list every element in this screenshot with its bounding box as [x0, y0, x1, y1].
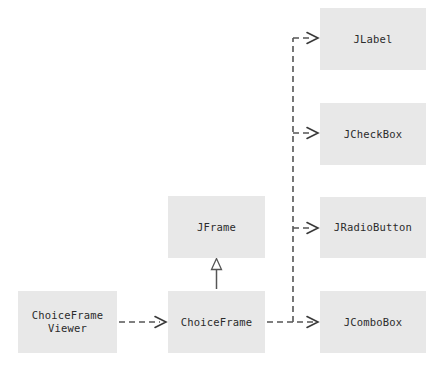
- class-name-label: JCheckBox: [344, 128, 403, 141]
- edge-choiceframe-to-jframe: [212, 259, 222, 290]
- class-name-label: JComboBox: [344, 316, 403, 329]
- class-name-label: JLabel: [353, 33, 392, 46]
- edge-viewer-to-choiceframe: [119, 317, 166, 328]
- class-box-jlabel[interactable]: JLabel: [320, 8, 426, 70]
- class-name-label: JFrame: [197, 221, 236, 234]
- edge-choiceframe-to-jradiobutton: [293, 223, 318, 234]
- class-box-jradiobutton[interactable]: JRadioButton: [320, 197, 426, 258]
- open-v-arrowhead-icon: [307, 33, 318, 44]
- hollow-triangle-arrowhead-icon: [212, 259, 222, 270]
- class-box-choiceframeviewer[interactable]: ChoiceFrame Viewer: [18, 291, 117, 353]
- class-box-jcombobox[interactable]: JComboBox: [320, 291, 426, 353]
- open-v-arrowhead-icon: [307, 223, 318, 234]
- uml-class-diagram: JLabel JCheckBox JRadioButton JComboBox …: [0, 0, 426, 368]
- class-box-jframe[interactable]: JFrame: [168, 196, 265, 258]
- class-name-label: ChoiceFrame Viewer: [32, 309, 104, 335]
- class-box-jcheckbox[interactable]: JCheckBox: [320, 103, 426, 165]
- class-name-label: JRadioButton: [334, 221, 412, 234]
- edge-choiceframe-to-jlabel: [293, 33, 318, 44]
- class-name-label: ChoiceFrame: [181, 316, 253, 329]
- edge-choiceframe-to-jcombobox: [267, 317, 318, 328]
- open-v-arrowhead-icon: [155, 317, 166, 328]
- class-box-choiceframe[interactable]: ChoiceFrame: [168, 291, 265, 353]
- edge-choiceframe-to-jcheckbox: [293, 128, 318, 139]
- open-v-arrowhead-icon: [307, 317, 318, 328]
- open-v-arrowhead-icon: [307, 128, 318, 139]
